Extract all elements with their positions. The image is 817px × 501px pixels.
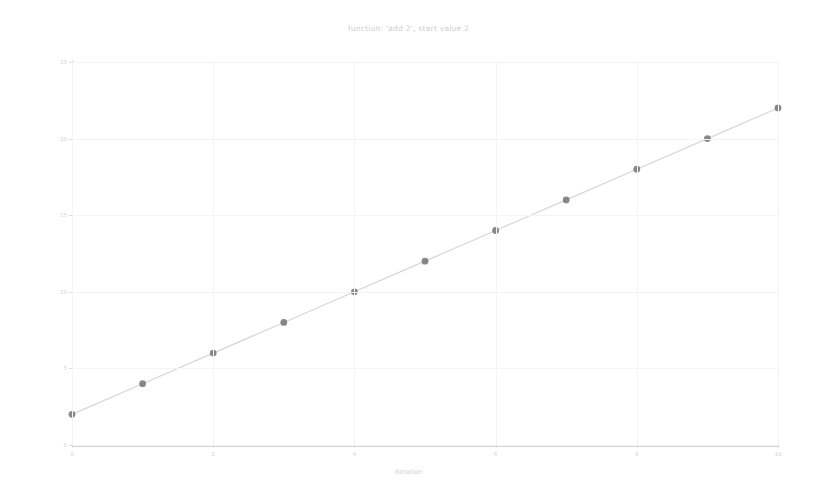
- y-axis-tick-label: 25: [60, 59, 67, 65]
- x-axis-tick-mark: [637, 445, 638, 448]
- chart-title: function: 'add 2', start value 2: [0, 24, 817, 33]
- data-point-marker[interactable]: [280, 319, 287, 326]
- grid-line-vertical: [354, 62, 355, 445]
- grid-line-horizontal: [72, 368, 778, 369]
- grid-line-horizontal: [72, 445, 778, 446]
- y-axis-tick-mark: [69, 368, 72, 369]
- x-axis-tick-label: 6: [494, 451, 498, 457]
- grid-line-horizontal: [72, 62, 778, 63]
- x-axis-tick-label: 2: [211, 451, 215, 457]
- y-axis-tick-mark: [69, 139, 72, 140]
- y-axis-tick-mark: [69, 292, 72, 293]
- y-axis-tick-label: 10: [60, 289, 67, 295]
- x-axis-tick-label: 10: [775, 451, 782, 457]
- grid-line-vertical: [778, 62, 779, 445]
- grid-line-vertical: [213, 62, 214, 445]
- x-axis-tick-mark: [354, 445, 355, 448]
- grid-line-horizontal: [72, 292, 778, 293]
- x-axis-label: iteration: [0, 468, 817, 476]
- grid-line-horizontal: [72, 215, 778, 216]
- x-axis-tick-label: 8: [635, 451, 639, 457]
- chart-figure: function: 'add 2', start value 2 0510152…: [0, 0, 817, 501]
- y-axis-tick-label: 5: [64, 365, 68, 371]
- x-axis-spine: [72, 446, 779, 447]
- x-axis-tick-mark: [496, 445, 497, 448]
- y-axis-tick-label: 15: [60, 212, 67, 218]
- y-axis-tick-label: 0: [64, 442, 68, 448]
- series-line-chart: [72, 62, 778, 445]
- data-point-marker[interactable]: [422, 258, 429, 265]
- x-axis-tick-mark: [213, 445, 214, 448]
- plot-area: 05101520250246810: [72, 62, 778, 445]
- y-axis-tick-label: 20: [60, 136, 67, 142]
- y-axis-tick-mark: [69, 215, 72, 216]
- grid-line-vertical: [496, 62, 497, 445]
- grid-line-vertical: [637, 62, 638, 445]
- grid-line-horizontal: [72, 139, 778, 140]
- data-point-marker[interactable]: [563, 196, 570, 203]
- grid-line-vertical: [72, 62, 73, 445]
- data-point-marker[interactable]: [139, 380, 146, 387]
- y-axis-tick-mark: [69, 62, 72, 63]
- x-axis-tick-mark: [778, 445, 779, 448]
- x-axis-tick-label: 0: [70, 451, 74, 457]
- x-axis-tick-mark: [72, 445, 73, 448]
- x-axis-tick-label: 4: [353, 451, 357, 457]
